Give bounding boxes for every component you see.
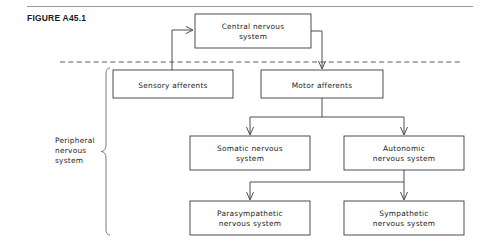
node-label-central-nervous-system-line-1: Central nervous bbox=[222, 22, 285, 31]
nervous-system-flow-diagram: Peripheral nervous system Central nervou… bbox=[0, 0, 486, 243]
node-label-autonomic-nervous-system-line-2: nervous system bbox=[373, 154, 435, 163]
side-label-line-3: system bbox=[55, 156, 83, 165]
node-parasympathetic-nervous-system[interactable]: Parasympathetic nervous system bbox=[190, 201, 310, 235]
node-box-somatic-nervous-system[interactable] bbox=[190, 136, 310, 170]
connector-cns-to-motor bbox=[311, 31, 326, 69]
node-motor-afferents[interactable]: Motor afferents bbox=[261, 70, 383, 98]
node-label-sympathetic-nervous-system-line-2: nervous system bbox=[373, 219, 435, 228]
node-somatic-nervous-system[interactable]: Somatic nervous system bbox=[190, 136, 310, 170]
node-label-somatic-nervous-system-line-1: Somatic nervous bbox=[217, 144, 283, 153]
node-label-autonomic-nervous-system-line-1: Autonomic bbox=[383, 144, 425, 153]
side-label-line-2: nervous bbox=[55, 146, 86, 155]
node-box-autonomic-nervous-system[interactable] bbox=[344, 136, 464, 170]
peripheral-nervous-system-label: Peripheral nervous system bbox=[55, 136, 95, 165]
connector-sensory-to-cns bbox=[172, 27, 193, 71]
peripheral-brace-icon bbox=[101, 68, 110, 235]
node-sympathetic-nervous-system[interactable]: Sympathetic nervous system bbox=[344, 201, 464, 235]
node-label-motor-afferents: Motor afferents bbox=[292, 81, 353, 90]
node-label-sensory-afferents: Sensory afferents bbox=[138, 81, 207, 90]
node-label-sympathetic-nervous-system-line-1: Sympathetic bbox=[379, 209, 428, 218]
node-sensory-afferents[interactable]: Sensory afferents bbox=[113, 70, 233, 98]
node-label-somatic-nervous-system-line-2: system bbox=[236, 154, 264, 163]
node-autonomic-nervous-system[interactable]: Autonomic nervous system bbox=[344, 136, 464, 170]
node-box-central-nervous-system[interactable] bbox=[195, 14, 311, 48]
connector-motor-to-somatic-autonomic bbox=[247, 98, 408, 135]
node-label-parasympathetic-nervous-system-line-2: nervous system bbox=[219, 219, 281, 228]
connector-autonomic-to-para-sympathetic bbox=[247, 170, 408, 200]
node-label-parasympathetic-nervous-system-line-1: Parasympathetic bbox=[217, 209, 283, 218]
figure-container: FIGURE A45.1 Peri bbox=[0, 0, 486, 243]
node-box-parasympathetic-nervous-system[interactable] bbox=[190, 201, 310, 235]
node-central-nervous-system[interactable]: Central nervous system bbox=[195, 14, 311, 48]
side-label-line-1: Peripheral bbox=[55, 136, 95, 145]
node-box-sympathetic-nervous-system[interactable] bbox=[344, 201, 464, 235]
node-label-central-nervous-system-line-2: system bbox=[239, 32, 267, 41]
